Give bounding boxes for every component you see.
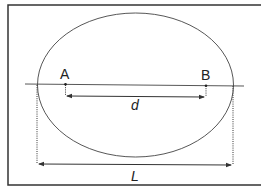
distance-d-label: d <box>131 97 140 113</box>
axis-line <box>25 84 244 86</box>
point-a-label: A <box>60 66 70 82</box>
ellipse-diagram: A B d L <box>0 0 261 191</box>
length-l-arrow <box>39 164 231 165</box>
length-l-label: L <box>131 168 139 184</box>
point-b-label: B <box>201 67 210 83</box>
diagram-frame <box>8 5 261 185</box>
